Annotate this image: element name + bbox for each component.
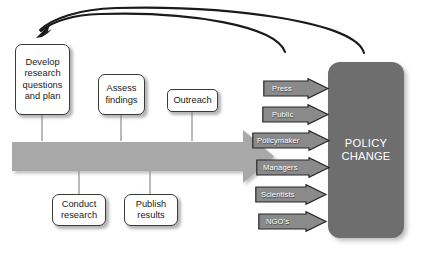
stakeholder-arrow-policymaker[interactable]: Policymaker [252, 130, 330, 151]
stakeholder-arrow-press-label: Press [263, 78, 292, 99]
stakeholder-arrow-public-label: Public [262, 104, 293, 125]
stage-box-develop-research-label: Developresearchquestionsand plan [20, 57, 66, 102]
stage-box-assess-findings-label: Assessfindings [102, 83, 140, 105]
stage-box-assess-findings[interactable]: Assessfindings [98, 74, 145, 115]
stakeholder-arrow-managers[interactable]: Managers [256, 157, 330, 178]
stakeholder-arrow-managers-label: Managers [256, 157, 298, 178]
stakeholder-arrow-ngos-label: NGO's [258, 211, 289, 232]
stakeholder-arrow-public[interactable]: Public [262, 104, 329, 125]
stage-box-outreach-label: Outreach [170, 95, 214, 106]
policy-change-block[interactable]: POLICYCHANGE [328, 62, 404, 238]
stage-box-publish-results-label: Publishresults [133, 199, 170, 221]
stage-box-publish-results[interactable]: Publishresults [124, 194, 178, 226]
diagram-canvas: Developresearchquestionsand plan Assessf… [0, 0, 427, 256]
stakeholder-arrow-ngos[interactable]: NGO's [258, 211, 327, 232]
main-process-arrow [12, 130, 274, 183]
feedback-arrow-inner [41, 14, 285, 52]
stakeholder-arrow-scientists-label: Scientists [255, 184, 295, 205]
policy-change-label: POLICYCHANGE [341, 137, 390, 164]
stakeholder-arrow-policymaker-label: Policymaker [252, 130, 299, 151]
stage-box-develop-research[interactable]: Developresearchquestionsand plan [15, 44, 70, 115]
stage-box-outreach[interactable]: Outreach [167, 89, 218, 112]
stakeholder-arrow-press[interactable]: Press [263, 78, 329, 99]
stakeholder-arrow-scientists[interactable]: Scientists [255, 184, 327, 205]
stage-box-conduct-research[interactable]: Conductresearch [52, 194, 106, 226]
stage-box-conduct-research-label: Conductresearch [58, 199, 100, 221]
